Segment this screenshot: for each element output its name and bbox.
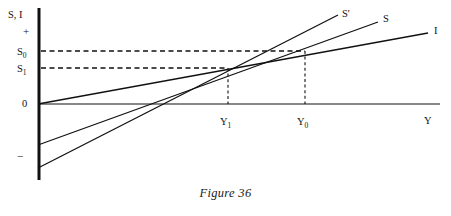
origin-label: 0 — [22, 98, 27, 109]
y-tick-s1-subscript: 1 — [23, 68, 27, 77]
curve-label-i: I — [434, 25, 438, 36]
y-tick-s1: S1 — [17, 63, 27, 77]
x-tick-y0: Y0 — [297, 116, 309, 130]
y-tick-s0: S0 — [17, 46, 27, 60]
figure-page: S, I + S0 S1 0 − Y1 Y0 Y S' S I Figure 3… — [0, 0, 451, 216]
curve-label-s-prime: S' — [342, 8, 350, 19]
positive-sign-label: + — [23, 25, 29, 37]
negative-sign-label: − — [17, 150, 23, 162]
y-tick-s0-subscript: 0 — [23, 51, 27, 60]
curve-s — [38, 22, 378, 145]
x-axis-label: Y — [424, 115, 432, 126]
curve-s-prime — [38, 15, 338, 168]
figure-caption: Figure 36 — [0, 186, 451, 201]
x-tick-y1: Y1 — [220, 116, 232, 130]
x-tick-y0-subscript: 0 — [305, 121, 309, 130]
savings-investment-diagram: S, I + S0 S1 0 − Y1 Y0 Y S' S I — [0, 0, 451, 216]
curve-label-s: S — [383, 13, 389, 24]
x-tick-y1-subscript: 1 — [228, 121, 232, 130]
y-axis-label: S, I — [8, 9, 23, 20]
